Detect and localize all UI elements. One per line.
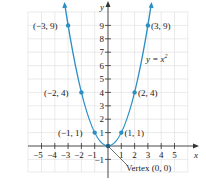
point-neg2-4 <box>79 90 83 94</box>
x-axis-label: x <box>193 150 198 160</box>
vertex-callout-line <box>109 147 127 165</box>
x-axis-arrow-icon <box>193 144 199 149</box>
x-tick-label: 3 <box>146 150 151 160</box>
y-tick-label: 8 <box>100 34 105 44</box>
point-1-1 <box>119 130 123 134</box>
x-tick-label: −5 <box>33 150 43 160</box>
label-neg2-4: (−2, 4) <box>44 88 69 98</box>
point-2-4 <box>132 90 136 94</box>
y-tick-label: 2 <box>100 114 105 124</box>
point-neg1-1 <box>93 130 97 134</box>
y-axis-label: y <box>99 2 104 12</box>
label-neg1-1: (−1, 1) <box>58 128 83 138</box>
y-tick-label: 9 <box>100 21 105 31</box>
x-tick-labels: −5 −4 −3 −2 −1 1 2 3 4 5 <box>33 150 177 160</box>
y-tick-label: 5 <box>100 74 105 84</box>
y-tick-label: 1 <box>100 128 105 138</box>
label-2-4: (2, 4) <box>138 88 158 98</box>
y-tick-label: 4 <box>100 88 105 98</box>
x-tick-label: 2 <box>132 150 137 160</box>
y-tick-label: 6 <box>100 61 105 71</box>
x-tick-label: −3 <box>61 150 71 160</box>
label-neg3-9: (−3, 9) <box>33 21 58 31</box>
x-tick-label: 5 <box>172 150 177 160</box>
curve-arrow-right-icon <box>149 2 154 8</box>
y-tick-label: 7 <box>100 47 105 57</box>
y-axis-arrow-icon <box>106 1 111 7</box>
curve-arrow-left-icon <box>62 2 67 8</box>
x-tick-label: −2 <box>74 150 84 160</box>
point-3-9 <box>146 23 150 27</box>
x-tick-label: −4 <box>47 150 57 160</box>
point-neg3-9 <box>66 23 70 27</box>
x-tick-label: 4 <box>159 150 164 160</box>
label-1-1: (1, 1) <box>125 128 145 138</box>
parabola-chart: −5 −4 −3 −2 −1 1 2 3 4 5 x 9 8 7 6 5 4 3… <box>0 0 206 187</box>
label-3-9: (3, 9) <box>151 21 171 31</box>
vertex-label: Vertex (0, 0) <box>126 163 171 173</box>
y-tick-label: 3 <box>100 101 105 111</box>
equation-label: y = x2 <box>145 53 168 64</box>
x-tick-label: 1 <box>119 150 124 160</box>
y-tick-label: −1 <box>94 155 104 165</box>
